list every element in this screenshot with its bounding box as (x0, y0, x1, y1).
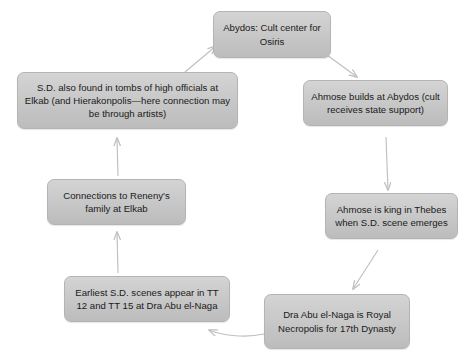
node-abydos-cult-center[interactable]: Abydos: Cult center for Osiris (213, 11, 331, 58)
node-ahmose-builds-at-abydos[interactable]: Ahmose builds at Abydos (cult receives s… (303, 80, 448, 126)
node-reneny-family-connections[interactable]: Connections to Reneny's family at Elkab (47, 179, 186, 225)
arrow-ahmose-builds-to-ahmose-king (386, 137, 388, 190)
node-earliest-sd-label: Earliest S.D. scenes appear in TT 12 and… (71, 286, 223, 312)
diagram-canvas: Abydos: Cult center for Osiris Ahmose bu… (0, 0, 473, 356)
node-dra-abu-el-naga-necropolis[interactable]: Dra Abu el-Naga is Royal Necropolis for … (264, 294, 410, 349)
node-earliest-sd-scenes[interactable]: Earliest S.D. scenes appear in TT 12 and… (64, 276, 230, 322)
node-sd-in-tombs-of-officials[interactable]: S.D. also found in tombs of high officia… (17, 72, 238, 129)
node-ahmose-king-label: Ahmose is king in Thebes when S.D. scene… (332, 203, 451, 229)
node-sd-officials-label: S.D. also found in tombs of high officia… (24, 81, 231, 121)
node-dra-abu-label: Dra Abu el-Naga is Royal Necropolis for … (271, 308, 403, 334)
arrow-abydos-to-ahmose-builds (327, 55, 357, 77)
node-ahmose-builds-label: Ahmose builds at Abydos (cult receives s… (310, 90, 441, 116)
node-abydos-label: Abydos: Cult center for Osiris (220, 21, 324, 47)
node-ahmose-king-in-thebes[interactable]: Ahmose is king in Thebes when S.D. scene… (325, 193, 458, 239)
arrow-earliest-sd-to-reneny (117, 232, 118, 273)
arrow-reneny-to-sd-officials (117, 138, 118, 176)
arrow-sd-officials-to-abydos (185, 46, 216, 72)
arrow-ahmose-king-to-dra-abu (353, 250, 378, 289)
node-reneny-label: Connections to Reneny's family at Elkab (54, 189, 179, 215)
arrow-dra-abu-to-earliest-sd (209, 330, 264, 336)
